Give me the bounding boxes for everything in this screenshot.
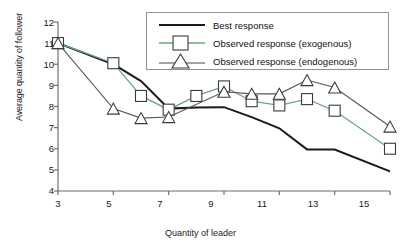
data-point-marker: [302, 94, 313, 105]
data-point-marker: [136, 90, 147, 101]
data-point-marker: [191, 90, 202, 101]
data-point-marker: [108, 58, 119, 69]
data-point-marker: [329, 82, 341, 93]
legend-item-endogenous: Observed response (endogenous): [155, 52, 357, 70]
data-point-marker: [384, 121, 396, 132]
legend-label-exogenous: Observed response (exogenous): [213, 38, 351, 49]
data-point-marker: [274, 100, 285, 111]
data-point-marker: [385, 143, 396, 154]
legend-label-endogenous: Observed response (endogenous): [213, 56, 357, 67]
legend-label-best-response: Best response: [213, 20, 274, 31]
data-point-marker: [301, 75, 313, 86]
data-point-marker: [329, 105, 340, 116]
legend: Best response Observed response (exogeno…: [146, 12, 389, 70]
legend-swatch-line: [155, 16, 209, 34]
chart-container: Average quantity of follower 12 11 10 9 …: [0, 0, 401, 252]
legend-item-exogenous: Observed response (exogenous): [155, 34, 351, 52]
legend-swatch-triangle: [155, 52, 209, 70]
legend-swatch-square: [155, 34, 209, 52]
legend-item-best-response: Best response: [155, 16, 274, 34]
data-point-marker: [107, 103, 119, 114]
